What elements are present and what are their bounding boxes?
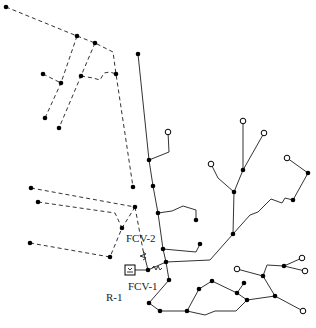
fcv1-label: FCV-1 [128,280,158,292]
reservoir-label: R-1 [106,291,123,303]
solid-pipes [135,54,308,315]
terminal-nodes [165,118,308,314]
fcv-2-valve-icon[interactable] [140,252,146,260]
fcv2-label: FCV-2 [126,232,156,244]
reservoir-r1-icon[interactable] [125,265,135,275]
dashed-pipes [6,7,143,257]
network-diagram: FCV-2 FCV-1 R-1 [0,0,316,328]
